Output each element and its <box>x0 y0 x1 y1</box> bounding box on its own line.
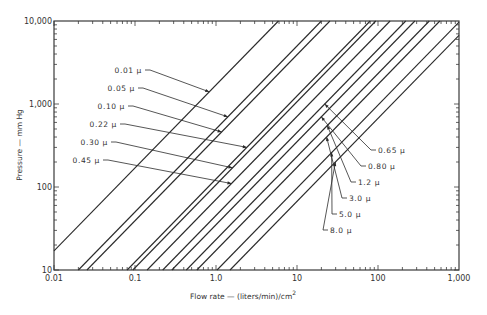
x-tick-label: 100 <box>370 274 385 283</box>
y-tick-label: 10 <box>42 266 52 275</box>
y-axis-title: Pressure — mm Hg <box>15 109 24 181</box>
x-axis-title: Flow rate — (liters/min)/cm2 <box>190 289 296 301</box>
series-label: 0.30 μ <box>81 138 108 147</box>
x-tick-label: 0.01 <box>45 274 63 283</box>
series-label: 1.2 μ <box>358 178 380 187</box>
x-tick-label: 1.0 <box>210 274 223 283</box>
series-annotations: 0.01 μ0.05 μ0.10 μ0.22 μ0.30 μ0.45 μ0.65… <box>73 66 406 235</box>
arrowhead-icon <box>205 89 209 92</box>
x-tick-label: 0.1 <box>129 274 142 283</box>
y-tick-label: 100 <box>37 183 52 192</box>
series-label: 0.65 μ <box>378 146 405 155</box>
series-line <box>54 21 278 251</box>
y-tick-label: 10,000 <box>24 17 52 26</box>
series-label: 0.10 μ <box>98 102 125 111</box>
series-label: 0.01 μ <box>115 66 142 75</box>
y-tick-label: 1,000 <box>29 100 52 109</box>
series-label: 0.45 μ <box>73 156 100 165</box>
series-label: 0.80 μ <box>368 162 395 171</box>
series-label: 3.0 μ <box>349 194 371 203</box>
filter-flow-chart: 0.01 μ0.05 μ0.10 μ0.22 μ0.30 μ0.45 μ0.65… <box>0 0 487 315</box>
arrowhead-icon <box>224 114 228 117</box>
x-tick-label: 10 <box>292 274 302 283</box>
series-label: 0.05 μ <box>108 84 135 93</box>
leader-line <box>138 88 228 117</box>
series-line <box>147 21 390 270</box>
arrowhead-icon <box>217 129 221 132</box>
leader-line <box>145 70 209 92</box>
series-label: 5.0 μ <box>339 210 361 219</box>
series-label: 0.22 μ <box>90 120 117 129</box>
leader-line <box>325 104 376 150</box>
series-label: 8.0 μ <box>330 226 352 235</box>
leader-line <box>120 124 247 147</box>
x-tick-label: 1,000 <box>448 274 471 283</box>
